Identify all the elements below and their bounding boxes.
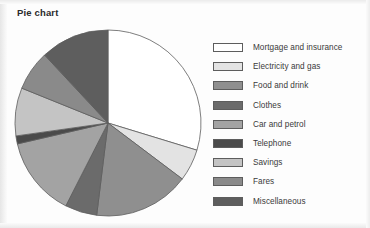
legend-swatch-icon bbox=[213, 139, 243, 148]
chart-legend: Mortgage and insuranceElectricity and ga… bbox=[213, 38, 368, 211]
legend-item[interactable]: Food and drink bbox=[213, 76, 368, 95]
legend-item-label: Telephone bbox=[253, 139, 291, 148]
legend-item[interactable]: Miscellaneous bbox=[213, 192, 368, 211]
legend-item[interactable]: Car and petrol bbox=[213, 115, 368, 134]
legend-item-label: Fares bbox=[253, 177, 274, 186]
legend-item[interactable]: Telephone bbox=[213, 134, 368, 153]
legend-item[interactable]: Mortgage and insurance bbox=[213, 38, 368, 57]
legend-item-label: Miscellaneous bbox=[253, 197, 306, 206]
legend-swatch-icon bbox=[213, 81, 243, 90]
legend-swatch-icon bbox=[213, 43, 243, 52]
legend-swatch-icon bbox=[213, 101, 243, 110]
legend-item-label: Clothes bbox=[253, 101, 281, 110]
legend-swatch-icon bbox=[213, 62, 243, 71]
legend-item-label: Electricity and gas bbox=[253, 62, 320, 71]
legend-item[interactable]: Fares bbox=[213, 172, 368, 191]
legend-item-label: Car and petrol bbox=[253, 120, 306, 129]
legend-item[interactable]: Clothes bbox=[213, 96, 368, 115]
pie-chart-panel: Pie chart Mortgage and insuranceElectric… bbox=[0, 0, 370, 228]
legend-swatch-icon bbox=[213, 177, 243, 186]
legend-swatch-icon bbox=[213, 120, 243, 129]
legend-item[interactable]: Electricity and gas bbox=[213, 57, 368, 76]
pie-slices-group bbox=[15, 30, 201, 216]
legend-swatch-icon bbox=[213, 197, 243, 206]
legend-item-label: Savings bbox=[253, 158, 282, 167]
legend-swatch-icon bbox=[213, 158, 243, 167]
legend-item-label: Mortgage and insurance bbox=[253, 43, 342, 52]
legend-item[interactable]: Savings bbox=[213, 153, 368, 172]
legend-item-label: Food and drink bbox=[253, 81, 308, 90]
